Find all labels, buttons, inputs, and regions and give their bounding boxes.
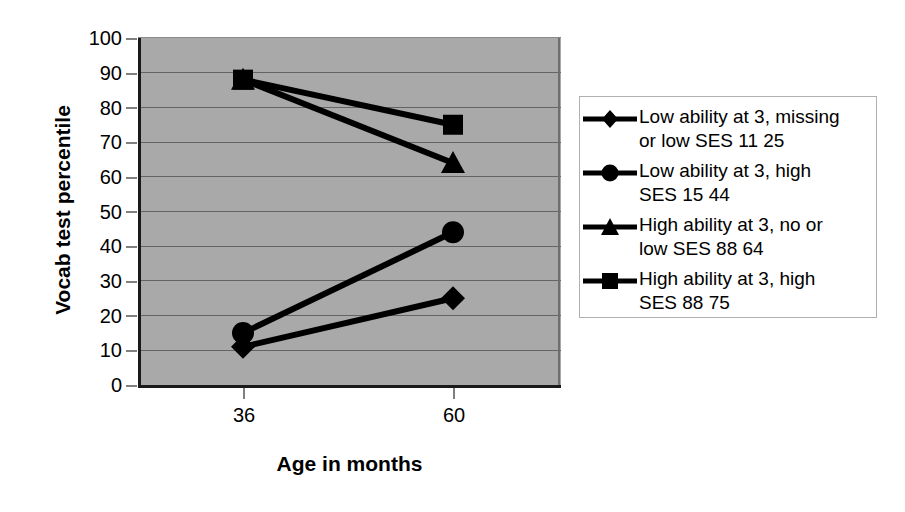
line-chart: Vocab test percentile 100 90 80 70 60 50… bbox=[0, 0, 905, 512]
y-tick-mark bbox=[126, 107, 137, 109]
square-marker-icon bbox=[581, 268, 639, 294]
y-tick-mark bbox=[126, 38, 137, 40]
legend-item[interactable]: High ability at 3, high SES 88 75 bbox=[581, 267, 875, 315]
gridline bbox=[141, 107, 561, 108]
y-axis-tick-labels: 100 90 80 70 60 50 40 30 20 10 0 bbox=[70, 0, 122, 512]
y-tick-label: 0 bbox=[70, 375, 122, 395]
plot-area bbox=[138, 38, 561, 388]
gridline bbox=[141, 142, 561, 143]
y-tick-label: 60 bbox=[70, 167, 122, 187]
gridline bbox=[141, 315, 561, 316]
y-tick-mark bbox=[126, 177, 137, 179]
y-tick-label: 50 bbox=[70, 202, 122, 222]
x-tick-label: 60 bbox=[414, 404, 494, 427]
legend-item-label: High ability at 3, high SES 88 75 bbox=[639, 267, 815, 315]
y-tick-label: 20 bbox=[70, 306, 122, 326]
plot-border-right bbox=[558, 38, 560, 385]
legend-item-label: Low ability at 3, missing or low SES 11 … bbox=[639, 105, 840, 153]
x-tick-label: 36 bbox=[204, 404, 284, 427]
y-tick-label: 40 bbox=[70, 236, 122, 256]
y-tick-label: 100 bbox=[70, 28, 122, 48]
gridline bbox=[141, 211, 561, 212]
circle-marker-icon bbox=[581, 160, 639, 186]
triangle-marker-icon bbox=[581, 214, 639, 240]
gridline bbox=[141, 280, 561, 281]
y-tick-label: 10 bbox=[70, 340, 122, 360]
legend-item[interactable]: Low ability at 3, missing or low SES 11 … bbox=[581, 105, 875, 153]
y-tick-mark bbox=[126, 350, 137, 352]
y-tick-mark bbox=[126, 246, 137, 248]
y-tick-mark bbox=[126, 281, 137, 283]
legend-item-label: High ability at 3, no or low SES 88 64 bbox=[639, 213, 823, 261]
y-tick-label: 30 bbox=[70, 271, 122, 291]
legend-item[interactable]: Low ability at 3, high SES 15 44 bbox=[581, 159, 875, 207]
y-tick-mark bbox=[126, 73, 137, 75]
gridline bbox=[141, 246, 561, 247]
legend: Low ability at 3, missing or low SES 11 … bbox=[581, 98, 875, 316]
y-tick-label: 90 bbox=[70, 63, 122, 83]
gridline bbox=[141, 176, 561, 177]
diamond-marker-icon bbox=[581, 106, 639, 132]
y-tick-mark bbox=[126, 385, 137, 387]
y-tick-mark bbox=[126, 142, 137, 144]
gridline bbox=[141, 72, 561, 73]
y-tick-mark bbox=[126, 211, 137, 213]
y-tick-mark bbox=[126, 315, 137, 317]
y-tick-label: 80 bbox=[70, 98, 122, 118]
y-tick-label: 70 bbox=[70, 132, 122, 152]
legend-item-label: Low ability at 3, high SES 15 44 bbox=[639, 159, 811, 207]
x-tick-mark bbox=[453, 388, 455, 399]
legend-item[interactable]: High ability at 3, no or low SES 88 64 bbox=[581, 213, 875, 261]
x-tick-mark bbox=[243, 388, 245, 399]
x-axis-title: Age in months bbox=[138, 452, 561, 476]
gridline bbox=[141, 350, 561, 351]
